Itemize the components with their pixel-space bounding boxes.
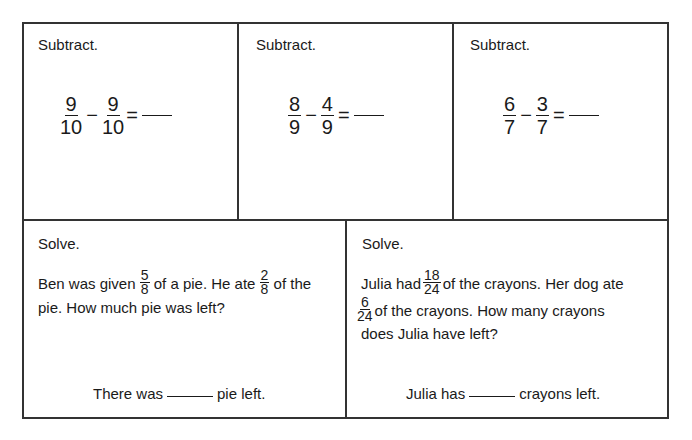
instruction: Subtract. [38, 36, 98, 53]
answer-blank[interactable] [167, 395, 213, 397]
instruction: Solve. [38, 235, 80, 252]
fraction: 6 7 [503, 94, 516, 137]
minus-sign: − [305, 104, 317, 127]
fraction: 9 10 [102, 94, 124, 137]
answer-line: Julia hascrayons left. [406, 385, 600, 402]
answer-line: There waspie left. [93, 385, 265, 402]
subtract-problem-3: Subtract. 6 7 − 3 7 = [454, 24, 667, 219]
word-problem-ben: Solve. Ben was given 5 8 of a pie. He at… [24, 221, 345, 417]
equals-sign: = [338, 104, 350, 127]
answer-blank[interactable] [142, 114, 172, 116]
equation: 6 7 − 3 7 = [503, 94, 599, 137]
subtract-problem-1: Subtract. 9 10 − 9 10 = [24, 24, 237, 219]
answer-blank[interactable] [354, 114, 384, 116]
fraction: 18 24 [423, 269, 441, 297]
instruction: Subtract. [470, 36, 530, 53]
instruction: Solve. [362, 235, 404, 252]
word-problem-julia: Solve. Julia had 18 24 of the crayons. H… [347, 221, 667, 417]
problem-text: Julia had 18 24 of the crayons. Her dog … [361, 271, 666, 345]
answer-blank[interactable] [469, 395, 515, 397]
minus-sign: − [86, 104, 98, 127]
equation: 8 9 − 4 9 = [288, 94, 384, 137]
subtract-problem-2: Subtract. 8 9 − 4 9 = [239, 24, 452, 219]
fraction: 3 7 [536, 94, 549, 137]
answer-blank[interactable] [569, 114, 599, 116]
equals-sign: = [126, 104, 138, 127]
fraction: 8 9 [288, 94, 301, 137]
fraction: 2 8 [260, 269, 270, 297]
fraction: 4 9 [321, 94, 334, 137]
fraction: 9 10 [60, 94, 82, 137]
problem-text: Ben was given 5 8 of a pie. He ate 2 8 o… [38, 271, 343, 319]
fraction: 5 8 [140, 269, 150, 297]
instruction: Subtract. [256, 36, 316, 53]
minus-sign: − [520, 104, 532, 127]
fraction: 6 24 [357, 296, 373, 324]
equals-sign: = [553, 104, 565, 127]
equation: 9 10 − 9 10 = [60, 94, 172, 137]
